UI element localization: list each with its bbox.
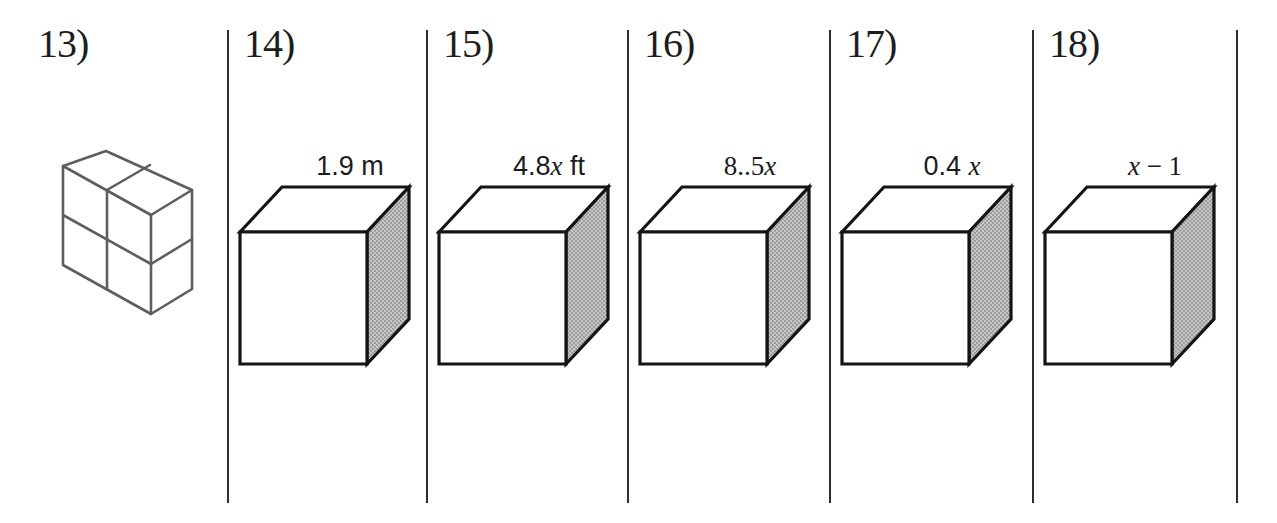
problem-number: 13) [38,22,88,66]
column-divider [1236,30,1238,503]
cube-figure [830,160,1020,375]
cube-figure [228,160,418,375]
problem-number: 14) [244,22,294,66]
problem-17: 17) 0.4 x [830,0,1032,523]
cube-figure [1033,160,1223,375]
problem-14: 14) 1.9 m [228,0,426,523]
problem-number: 16) [644,22,694,66]
problem-number: 15) [443,22,493,66]
unit-cube-prism-figure [38,133,208,323]
cube-figure [427,160,617,375]
problem-15: 15) 4.8x ft [427,0,627,523]
problem-number: 17) [846,22,896,66]
problem-number: 18) [1049,22,1099,66]
problem-16: 16) 8..5x [628,0,829,523]
problem-13: 13) [0,0,227,523]
problem-18: 18) x − 1 [1033,0,1236,523]
cube-figure [628,160,818,375]
